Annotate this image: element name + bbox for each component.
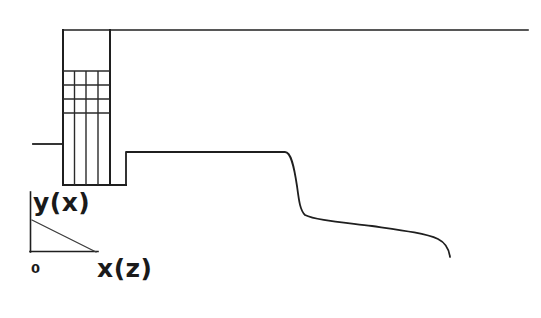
block-outline	[63, 30, 126, 185]
origin-label: 0	[31, 262, 40, 275]
x-axis-label: x(z)	[97, 256, 153, 281]
diagram-vector-graphic	[0, 0, 541, 318]
step-and-decay-curve	[126, 152, 450, 257]
diagram-canvas: y(x) x(z) 0	[0, 0, 541, 318]
y-axis-label: y(x)	[33, 190, 90, 215]
legend-diagonal-line	[32, 220, 96, 252]
grid-vertical-lines	[75, 71, 99, 185]
